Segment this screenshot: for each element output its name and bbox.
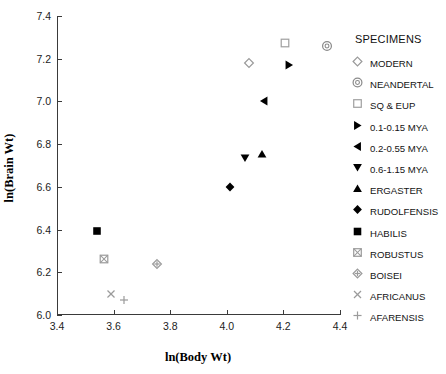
x-tick-label: 3.4 [50, 320, 65, 332]
legend-item-label: AFRICANUS [370, 291, 425, 302]
y-tick [57, 101, 62, 102]
data-point-robustus [98, 254, 109, 265]
legend-item-ergaster[interactable]: ERGASTER [348, 181, 446, 199]
legend-item-label: 0.1-0.15 MYA [370, 121, 428, 132]
y-tick [57, 187, 62, 188]
y-tick [57, 272, 62, 273]
x-tick-label: 4.0 [219, 320, 234, 332]
legend-item-label: NEANDERTAL [370, 79, 434, 90]
x-tick-label: 3.8 [163, 320, 178, 332]
legend-marker-icon [352, 141, 366, 155]
y-axis-title: ln(Brain Wt) [2, 134, 17, 203]
legend-item-rudolfensis[interactable]: RUDOLFENSIS [348, 202, 446, 220]
data-point-boisei [152, 258, 163, 269]
chart-root: 3.43.63.84.04.24.4 6.06.26.46.66.87.07.2… [0, 0, 446, 374]
legend-item-modern[interactable]: MODERN [348, 54, 446, 72]
y-tick-label: 6.6 [23, 181, 51, 193]
legend-marker-icon [352, 183, 366, 197]
x-tick [340, 310, 341, 315]
y-tick-label: 7.4 [23, 10, 51, 22]
legend-marker-icon [352, 98, 366, 112]
data-point-0-6-1-15-mya [240, 153, 251, 164]
x-tick [227, 310, 228, 315]
y-tick [57, 230, 62, 231]
data-point-rudolfensis [224, 181, 235, 192]
y-tick-label: 6.0 [23, 309, 51, 321]
data-point-0-2-0-55-mya [258, 96, 269, 107]
data-point-modern [244, 57, 255, 68]
legend-item-0-6-1-15-mya[interactable]: 0.6-1.15 MYA [348, 160, 446, 178]
legend-item-sq-eup[interactable]: SQ & EUP [348, 96, 446, 114]
legend-marker-icon [352, 56, 366, 70]
legend-item-habilis[interactable]: HABILIS [348, 224, 446, 242]
legend-marker-icon [352, 268, 366, 282]
legend-marker-icon [352, 247, 366, 261]
legend-marker-icon [352, 226, 366, 240]
legend-item-afarensis[interactable]: AFARENSIS [348, 308, 446, 326]
data-point-habilis [91, 225, 102, 236]
legend-item-label: ROBUSTUS [370, 248, 423, 259]
legend-marker-icon [352, 162, 366, 176]
legend-item-label: 0.6-1.15 MYA [370, 164, 428, 175]
data-point-ergaster [257, 148, 268, 159]
legend-item-label: 0.2-0.55 MYA [370, 142, 428, 153]
legend-marker-icon [352, 77, 366, 91]
data-point-sq-eup [279, 37, 290, 48]
x-tick-label: 4.2 [276, 320, 291, 332]
legend-marker-icon [352, 120, 366, 134]
x-tick [114, 310, 115, 315]
y-tick-label: 6.8 [23, 138, 51, 150]
legend-marker-icon [352, 204, 366, 218]
legend-item-africanus[interactable]: AFRICANUS [348, 287, 446, 305]
legend-marker-icon [352, 310, 366, 324]
legend-item-label: ERGASTER [370, 185, 423, 196]
legend-item-label: HABILIS [370, 227, 407, 238]
legend-item-0-2-0-55-mya[interactable]: 0.2-0.55 MYA [348, 139, 446, 157]
x-tick [283, 310, 284, 315]
data-point-0-1-0-15-mya [284, 60, 295, 71]
plot-area [57, 16, 340, 315]
legend-item-robustus[interactable]: ROBUSTUS [348, 245, 446, 263]
legend-title: SPECIMENS [355, 33, 422, 45]
y-tick [57, 144, 62, 145]
legend: SPECIMENS MODERNNEANDERTALSQ & EUP0.1-0.… [348, 28, 446, 318]
y-tick [57, 59, 62, 60]
data-point-africanus [105, 288, 116, 299]
y-tick-label: 7.2 [23, 53, 51, 65]
y-tick-label: 6.4 [23, 224, 51, 236]
legend-marker-icon [352, 289, 366, 303]
x-tick [170, 310, 171, 315]
legend-item-label: MODERN [370, 58, 413, 69]
x-axis-title: ln(Body Wt) [165, 350, 231, 365]
x-tick-label: 3.6 [106, 320, 121, 332]
data-point-afarensis [118, 295, 129, 306]
legend-item-boisei[interactable]: BOISEI [348, 266, 446, 284]
legend-item-0-1-0-15-mya[interactable]: 0.1-0.15 MYA [348, 118, 446, 136]
x-tick-label: 4.4 [333, 320, 348, 332]
legend-item-label: BOISEI [370, 270, 402, 281]
legend-item-label: RUDOLFENSIS [370, 206, 438, 217]
legend-item-label: AFARENSIS [370, 312, 424, 323]
y-tick-label: 6.2 [23, 266, 51, 278]
legend-item-neandertal[interactable]: NEANDERTAL [348, 75, 446, 93]
y-tick [57, 16, 62, 17]
legend-item-label: SQ & EUP [370, 100, 415, 111]
data-point-neandertal [322, 40, 333, 51]
y-tick [57, 315, 62, 316]
y-tick-label: 7.0 [23, 95, 51, 107]
